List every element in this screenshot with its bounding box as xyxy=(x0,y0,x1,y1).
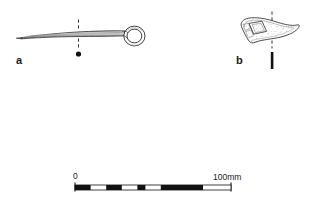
pin-tip xyxy=(16,38,21,39)
scale-start-label: 0 xyxy=(73,172,78,181)
figure-b-curved-fragment xyxy=(241,12,299,70)
scale-end-label: 100mm xyxy=(213,173,241,182)
pin-shaft xyxy=(22,31,125,39)
figure-b-section-bar xyxy=(271,52,274,69)
figure-a-section-dot xyxy=(76,51,81,56)
plate-artwork xyxy=(0,0,323,201)
scale-bar-outline xyxy=(75,185,231,190)
scale-segment xyxy=(137,185,145,190)
figure-label-a: a xyxy=(16,55,22,66)
scale-segment xyxy=(106,185,122,190)
figure-a-ring-headed-pin xyxy=(16,20,145,57)
scale-long-band xyxy=(161,185,203,190)
figure-a-section-marker xyxy=(76,20,81,57)
scale-bar-graphic xyxy=(75,183,231,192)
illustration-plate: a b 0 100mm xyxy=(0,0,323,201)
scale-segment xyxy=(75,185,91,190)
figure-label-b: b xyxy=(236,55,243,66)
pin-ring-head xyxy=(124,26,145,46)
